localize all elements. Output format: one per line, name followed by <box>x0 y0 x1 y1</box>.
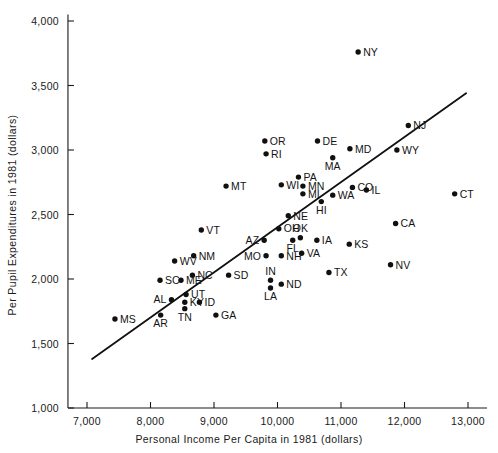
point-label: NM <box>199 250 216 262</box>
data-point <box>406 123 411 128</box>
point-label: NJ <box>413 119 426 131</box>
y-tick-label: 3,000 <box>31 144 59 156</box>
data-point <box>393 221 398 226</box>
x-tick-label: 7,000 <box>73 415 101 427</box>
data-point <box>276 226 281 231</box>
point-label: VT <box>206 224 220 236</box>
data-points: NYNJORDEMDWYRIMAPAWIMNCOILMTMIWACTHINECA… <box>112 46 474 329</box>
point-label: ME <box>186 274 202 286</box>
x-axis-title: Personal Income Per Capita in 1981 (doll… <box>135 433 362 445</box>
x-tick-label: 8,000 <box>137 415 165 427</box>
data-point <box>279 281 284 286</box>
data-point <box>182 300 187 305</box>
data-point <box>226 272 231 277</box>
data-point <box>112 316 117 321</box>
point-label: RI <box>271 148 282 160</box>
data-point <box>364 187 369 192</box>
point-label: WA <box>338 189 355 201</box>
point-label: IA <box>322 234 332 246</box>
x-tick-label: 9,000 <box>200 415 228 427</box>
data-point <box>300 191 305 196</box>
data-point <box>191 253 196 258</box>
point-label: HI <box>316 204 327 216</box>
data-point <box>268 278 273 283</box>
point-label: MI <box>308 188 320 200</box>
point-label: MO <box>244 250 261 262</box>
data-point <box>314 238 319 243</box>
point-label: MD <box>355 143 372 155</box>
data-point <box>279 253 284 258</box>
data-point <box>172 258 177 263</box>
y-tick-label: 1,000 <box>31 402 59 414</box>
point-label: ID <box>204 296 215 308</box>
point-label: MS <box>120 313 136 325</box>
data-point <box>298 235 303 240</box>
point-label: WY <box>402 144 419 156</box>
point-label: AL <box>153 293 166 305</box>
point-label: NV <box>396 259 411 271</box>
point-label: DE <box>323 135 338 147</box>
data-point <box>355 49 360 54</box>
point-label: NH <box>286 250 301 262</box>
point-label: IL <box>371 184 380 196</box>
y-tick-label: 4,000 <box>31 15 59 27</box>
plot-canvas: NYNJORDEMDWYRIMAPAWIMNCOILMTMIWACTHINECA… <box>0 0 498 453</box>
y-tick-label: 2,500 <box>31 209 59 221</box>
data-point <box>199 227 204 232</box>
y-axis-title: Per Pupil Expenditures in 1981 (dollars) <box>6 114 18 315</box>
data-point <box>169 297 174 302</box>
scatter-plot-figure: NYNJORDEMDWYRIMAPAWIMNCOILMTMIWACTHINECA… <box>0 0 498 453</box>
x-tick-label: 13,000 <box>451 415 485 427</box>
data-point <box>347 241 352 246</box>
point-label: KS <box>354 238 368 250</box>
point-label: LA <box>264 290 277 302</box>
data-point <box>299 251 304 256</box>
data-point <box>263 151 268 156</box>
data-point <box>394 147 399 152</box>
point-label: TN <box>178 311 192 323</box>
axes <box>68 15 487 408</box>
point-label: VA <box>307 247 320 259</box>
point-label: GA <box>221 309 236 321</box>
point-label: NY <box>363 46 378 58</box>
point-label: MT <box>231 180 247 192</box>
data-point <box>157 278 162 283</box>
point-label: NE <box>293 210 308 222</box>
data-point <box>315 138 320 143</box>
data-point <box>330 192 335 197</box>
point-label: KY <box>190 296 204 308</box>
point-label: CA <box>401 217 416 229</box>
x-tick-label: 12,000 <box>388 415 422 427</box>
data-point <box>452 191 457 196</box>
data-point <box>178 278 183 283</box>
data-point <box>262 138 267 143</box>
point-label: MA <box>325 160 341 172</box>
point-label: OK <box>293 222 308 234</box>
data-point <box>347 146 352 151</box>
data-point <box>300 183 305 188</box>
point-label: AZ <box>246 234 260 246</box>
data-point <box>388 262 393 267</box>
data-point <box>286 213 291 218</box>
point-label: CT <box>460 188 475 200</box>
x-tick-label: 11,000 <box>324 415 357 427</box>
data-point <box>279 182 284 187</box>
y-tick-label: 2,000 <box>31 273 59 285</box>
point-label: SD <box>234 269 249 281</box>
data-point <box>223 183 228 188</box>
data-point <box>263 253 268 258</box>
point-label: SC <box>165 274 180 286</box>
data-point <box>183 292 188 297</box>
x-tick-label: 10,000 <box>261 415 295 427</box>
data-point <box>261 238 266 243</box>
point-label: OR <box>270 135 286 147</box>
point-label: ND <box>286 278 302 290</box>
point-label: WI <box>286 179 299 191</box>
point-label: TX <box>334 266 348 278</box>
y-tick-label: 1,500 <box>31 338 59 350</box>
y-tick-label: 3,500 <box>31 80 59 92</box>
tick-labels: 1,0001,5002,0002,5003,0003,5004,0007,000… <box>31 15 485 427</box>
data-point <box>213 312 218 317</box>
point-label: AR <box>153 317 168 329</box>
point-label: IN <box>265 265 276 277</box>
